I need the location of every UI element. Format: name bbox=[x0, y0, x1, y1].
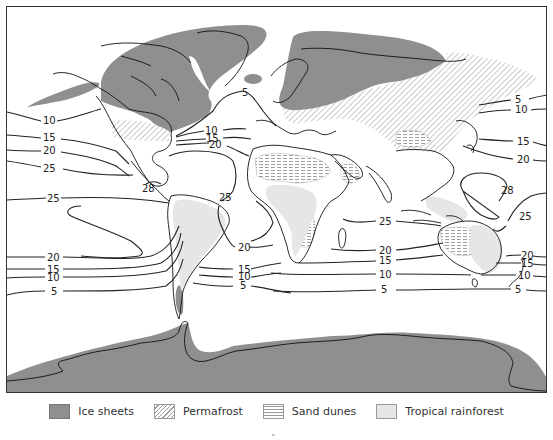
label-io-10: 10 bbox=[379, 269, 392, 280]
label-nwp-15: 15 bbox=[517, 136, 530, 147]
label-tas-15: 15 bbox=[521, 258, 534, 269]
label-nep-25: 25 bbox=[43, 163, 56, 174]
label-sa-20: 20 bbox=[238, 242, 251, 253]
label-sep-20: 20 bbox=[47, 252, 60, 263]
legend-item-permafrost: Permafrost bbox=[154, 404, 243, 419]
tropical-rainforest-swatch-icon bbox=[376, 404, 397, 419]
label-tas-10: 10 bbox=[518, 270, 531, 281]
legend-item-ice-sheets: Ice sheets bbox=[49, 404, 134, 419]
label-nep-20: 20 bbox=[43, 145, 56, 156]
ice-sheets-swatch-icon bbox=[49, 404, 70, 419]
label-nep-10: 10 bbox=[43, 115, 56, 126]
label-atl-25: 25 bbox=[219, 192, 232, 203]
legend-label: Sand dunes bbox=[292, 405, 357, 418]
legend-label: Permafrost bbox=[183, 405, 243, 418]
legend-label: Ice sheets bbox=[78, 405, 134, 418]
label-sep-10: 10 bbox=[47, 272, 60, 283]
legend-item-tropical-rainforest: Tropical rainforest bbox=[376, 404, 503, 419]
label-na-5: 5 bbox=[242, 87, 248, 98]
map-frame: 5 10 15 20 10 15 20 25 28 25 25 20 15 10… bbox=[6, 6, 547, 393]
label-sep-5: 5 bbox=[51, 286, 57, 297]
label-tas-5: 5 bbox=[515, 284, 521, 295]
label-nwp-10: 10 bbox=[515, 104, 528, 115]
legend-label: Tropical rainforest bbox=[405, 405, 503, 418]
label-sa-5: 5 bbox=[240, 280, 246, 291]
legend-item-sand-dunes: Sand dunes bbox=[263, 404, 357, 419]
label-nep-15: 15 bbox=[43, 132, 56, 143]
label-ep-25: 25 bbox=[47, 193, 60, 204]
label-wp-25: 25 bbox=[519, 211, 532, 222]
label-nwp-20: 20 bbox=[517, 154, 530, 165]
label-caribbean-28: 28 bbox=[142, 183, 155, 194]
page-mark bbox=[272, 434, 275, 436]
permafrost-swatch-icon bbox=[154, 404, 175, 419]
label-io-5: 5 bbox=[381, 284, 387, 295]
label-na-20: 20 bbox=[209, 139, 222, 150]
label-io-15: 15 bbox=[379, 255, 392, 266]
world-map: 5 10 15 20 10 15 20 25 28 25 25 20 15 10… bbox=[7, 7, 547, 393]
label-io-25: 25 bbox=[379, 216, 392, 227]
label-wp-28: 28 bbox=[501, 185, 514, 196]
sand-dunes-swatch-icon bbox=[263, 404, 284, 419]
map-legend: Ice sheets Permafrost Sand dunes Tropica… bbox=[0, 404, 553, 419]
